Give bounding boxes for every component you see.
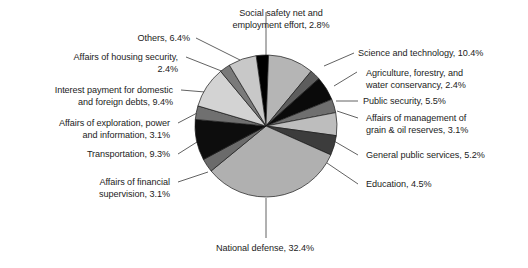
leader-line-science-and-technology: [324, 53, 354, 66]
pie-label-interest-payment-debts: Interest payment for domestic and foreig…: [0, 85, 173, 108]
pie-label-financial-supervision: Affairs of financial supervision, 3.1%: [2, 177, 170, 200]
pie-label-national-defense: National defense, 32.4%: [140, 243, 390, 255]
leader-line-financial-supervision: [178, 172, 208, 182]
leader-line-interest-payment-debts: [181, 90, 205, 92]
leader-line-agriculture-forestry-water: [334, 72, 357, 86]
pie-label-others: Others, 6.4%: [60, 33, 190, 45]
pie-label-social-safety-net: Social safety net and employment effort,…: [206, 8, 356, 31]
pie-label-public-security: Public security, 5.5%: [363, 96, 513, 108]
pie-slices: [195, 55, 337, 197]
pie-label-agriculture-forestry-water: Agriculture, forestry, and water conserv…: [366, 68, 526, 91]
pie-label-exploration-power-information: Affairs of exploration, power and inform…: [0, 118, 170, 141]
leader-line-education: [327, 163, 358, 184]
pie-label-housing-security: Affairs of housing security, 2.4%: [20, 52, 178, 75]
pie-label-general-public-services: General public services, 5.2%: [366, 150, 526, 162]
pie-label-science-and-technology: Science and technology, 10.4%: [358, 48, 524, 60]
pie-label-education: Education, 4.5%: [366, 179, 516, 191]
leader-line-general-public-services: [334, 141, 358, 155]
leader-line-transportation: [178, 142, 197, 154]
pie-chart: Social safety net and employment effort,…: [0, 0, 528, 268]
pie-label-grain-oil-reserves: Affairs of management of grain & oil res…: [366, 113, 526, 136]
leader-line-housing-security: [186, 57, 224, 72]
leader-line-others: [196, 38, 240, 60]
pie-label-transportation: Transportation, 9.3%: [2, 149, 170, 161]
leader-line-grain-oil-reserves: [337, 111, 358, 118]
